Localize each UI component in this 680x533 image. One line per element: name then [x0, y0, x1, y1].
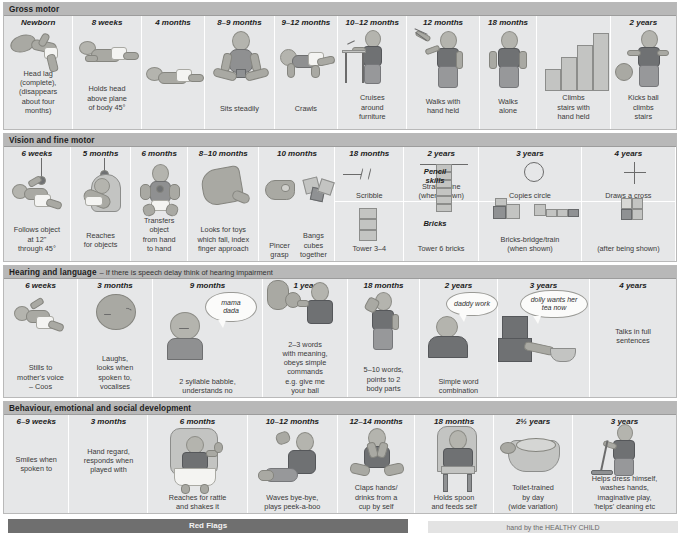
column-4-years-pencil-bricks[interactable]: 4 years Draws a cross (after being shown… — [582, 147, 676, 261]
column-8-10-months[interactable]: 8–10 months Looks for toys which fall, i… — [188, 147, 259, 261]
caption: 2 syllable babble, understands no — [153, 377, 262, 395]
section-header-behaviour: Behaviour, emotional and social developm… — [4, 402, 676, 415]
section-header-gross-motor: Gross motor — [4, 3, 676, 16]
column-8-9-months[interactable]: 8–9 months Sits steadily — [205, 16, 274, 129]
age-label: 18 months — [488, 18, 528, 27]
caption-bricks: Tower 6 bricks — [404, 244, 478, 253]
column-10-12-months[interactable]: 10–12 months Cruises around furniture — [338, 16, 407, 129]
column-2-years[interactable]: 2 years Kicks ball climbs stairs — [611, 16, 676, 129]
caption: Hand regard, responds when played with — [69, 447, 147, 475]
caption: Holds spoon and feeds self — [415, 493, 493, 511]
behaviour-columns: 6–9 weeks Smiles when spoken to 3 months… — [4, 415, 676, 513]
caption: Walks alone — [480, 97, 537, 115]
column-10-months[interactable]: 10 months Pincer grasp Bangs cubes toget… — [259, 147, 335, 261]
age-label: 6–9 weeks — [16, 417, 56, 426]
age-label: 3 months — [91, 417, 127, 426]
caption: Walks with hand held — [407, 97, 478, 115]
age-label: 18 months — [363, 281, 403, 290]
caption: Reaches for rattle and shakes it — [148, 493, 246, 511]
age-label: 12–14 months — [349, 417, 402, 426]
column-4-years[interactable]: 4 years Talks in full sentences — [590, 279, 676, 397]
column-18-months-pencil-bricks[interactable]: 18 months Scribble Tower 3–4 — [335, 147, 404, 261]
age-label: 10–12 months — [346, 18, 399, 27]
age-label: 6 months — [180, 417, 216, 426]
caption: Climbs stairs with hand held — [537, 93, 609, 121]
age-label: 5 months — [83, 149, 119, 158]
column-4-months[interactable]: 4 months — [142, 16, 206, 129]
bubble-text: mama dada — [221, 299, 240, 316]
age-label: 6 weeks — [25, 281, 56, 290]
age-label: 12 months — [423, 18, 463, 27]
column-newborn[interactable]: Newborn Head lag (complete), (disappears… — [4, 16, 73, 129]
figure-prone-4-months — [142, 27, 205, 129]
pencil-cell-3y: Copies circle — [479, 158, 581, 202]
column-3-months[interactable]: 3 months Hand regard, responds when play… — [69, 415, 148, 513]
caption: Stills to mother's voice – Coos — [4, 363, 77, 391]
caption: Sits steadily — [205, 104, 273, 113]
section-behaviour-social: Behaviour, emotional and social developm… — [3, 401, 677, 514]
column-6-9-weeks[interactable]: 6–9 weeks Smiles when spoken to — [4, 415, 69, 513]
age-label: 2 years — [630, 18, 658, 27]
column-1-year[interactable]: 1 year 2–3 words with meaning, obeys sim… — [263, 279, 348, 397]
red-flags-right-panel: hand by the HEALTHY CHILD — [428, 521, 678, 533]
column-18-months-stairs[interactable]: 18 months b Climbs stairs with hand held — [537, 16, 610, 129]
red-flags-right-label: hand by the HEALTHY CHILD — [428, 521, 678, 531]
speech-bubble: daddy work — [446, 292, 498, 316]
column-12-14-months[interactable]: 12–14 months Claps hands/ drinks from a … — [338, 415, 415, 513]
red-flags-label: Red Flags — [8, 519, 408, 530]
age-label: 3 months — [97, 281, 133, 290]
column-6-weeks[interactable]: 6 weeks Stills to mother's voice – Coos — [4, 279, 78, 397]
age-label: 8–9 months — [217, 18, 261, 27]
age-label: 4 years — [619, 281, 647, 290]
caption: Reaches for objects — [71, 231, 130, 249]
section-title: Hearing and language — [9, 268, 97, 277]
column-2-years-pencil-bricks[interactable]: 2 years Straight line (when shown) Tower… — [404, 147, 479, 261]
column-8-weeks[interactable]: 8 weeks Holds head above plane of body 4… — [73, 16, 141, 129]
caption: Transfers object from hand to hand — [131, 216, 187, 253]
column-9-12-months[interactable]: 9–12 months Crawls — [275, 16, 339, 129]
age-label: 2½ years — [516, 417, 550, 426]
label-bricks: Bricks — [415, 219, 455, 228]
bricks-cell-18m: Tower 3–4 — [335, 202, 403, 254]
milestones-chart: Gross motor Newborn Head lag (complete),… — [0, 0, 680, 533]
column-6-weeks[interactable]: 6 weeks Follows object at 12" through 45… — [4, 147, 71, 261]
vision-columns: 6 weeks Follows object at 12" through 45… — [4, 147, 676, 261]
age-label: 8–10 months — [199, 149, 248, 158]
column-18-months[interactable]: 18 months Holds spoon and feeds self — [415, 415, 494, 513]
figure-sitting — [205, 27, 273, 129]
age-label: 4 years — [615, 149, 643, 158]
section-header-hearing: Hearing and language – If there is speec… — [4, 266, 676, 279]
column-6-months[interactable]: 6 months Transfers object from hand to h… — [131, 147, 188, 261]
age-label: 6 months — [141, 149, 177, 158]
column-2-years[interactable]: 2 years daddy work Simple word combinati… — [420, 279, 498, 397]
caption: Toilet-trained by day (wide variation) — [494, 483, 572, 511]
age-label: Newborn — [21, 18, 55, 27]
bricks-cell-2y: Tower 6 bricks — [404, 202, 478, 254]
column-3-months[interactable]: 3 months Laughs, looks when spoken to, v… — [78, 279, 153, 397]
column-12-months[interactable]: 12 months Walks with hand held — [407, 16, 479, 129]
age-label: 18 months — [349, 149, 389, 158]
age-label: 9 months — [190, 281, 226, 290]
caption: Laughs, looks when spoken to, vocalises — [78, 354, 152, 391]
figure-dolly-tea: dolly wants her tea now — [498, 290, 589, 397]
caption-bricks: Bricks-bridge/train (when shown) — [479, 235, 581, 253]
section-title: Gross motor — [9, 5, 59, 14]
age-label: 8 weeks — [92, 18, 123, 27]
age-label: 3 years — [530, 281, 558, 290]
column-18-months-walks[interactable]: 18 months Walks alone — [480, 16, 538, 129]
age-label: 2 years — [427, 149, 455, 158]
column-3-years[interactable]: 3 years Helps dress himself, washes hand… — [573, 415, 676, 513]
caption: Smiles when spoken to — [4, 455, 68, 473]
column-3-years-pencil-bricks[interactable]: 3 years Copies circle Bricks-bridge/trai… — [479, 147, 582, 261]
label-pencil-skills: Pencil skills — [415, 167, 455, 185]
caption: Claps hands/ drinks from a cup by self — [338, 483, 414, 511]
section-hearing-language: Hearing and language – If there is speec… — [3, 265, 677, 398]
column-6-months[interactable]: 6 months Reaches for rattle and shakes i… — [148, 415, 247, 513]
column-5-months[interactable]: 5 months Reaches for objects — [71, 147, 131, 261]
column-2-5-years[interactable]: 2½ years Toilet-trained by day (wide var… — [494, 415, 573, 513]
column-3-years[interactable]: 3 years dolly wants her tea now — [498, 279, 590, 397]
age-label: 6 weeks — [22, 149, 53, 158]
column-9-months[interactable]: 9 months mama dada 2 syllable babble, un… — [153, 279, 263, 397]
column-10-12-months[interactable]: 10–12 months Waves bye-bye, plays peek-a… — [248, 415, 339, 513]
column-18-months[interactable]: 18 months 5–10 words, points to 2 body p… — [348, 279, 420, 397]
